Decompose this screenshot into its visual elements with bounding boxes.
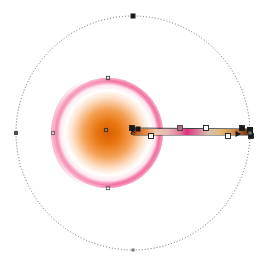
gradient-stop-handle-2[interactable]	[178, 126, 183, 131]
handle-bottom[interactable]	[132, 249, 135, 252]
gradient-stop-handle-6[interactable]	[240, 126, 245, 131]
handle-right[interactable]	[249, 132, 252, 135]
canvas-svg	[0, 0, 266, 265]
handle-top[interactable]	[131, 14, 136, 19]
editor-canvas[interactable]	[0, 0, 266, 265]
handle-left[interactable]	[14, 131, 18, 135]
gradient-stop-handle-4[interactable]	[204, 126, 209, 131]
gradient-start-square[interactable]	[136, 127, 141, 132]
gradient-stop-handle-5[interactable]	[226, 134, 231, 139]
gradient-stop-handle-1[interactable]	[149, 134, 154, 139]
